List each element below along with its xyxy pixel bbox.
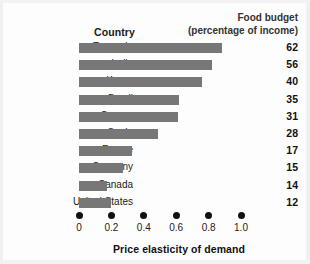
axis-tick-dot [76, 212, 83, 219]
axis-tick-dot [108, 212, 115, 219]
bar [79, 77, 202, 87]
axis-tick-label: 1.0 [221, 222, 261, 233]
chart-row: India56 [0, 57, 310, 74]
bar [79, 95, 179, 105]
food-budget-value: 17 [258, 144, 298, 156]
food-budget-value: 14 [258, 179, 298, 191]
food-budget-value: 56 [258, 58, 298, 70]
axis-tick-dot [140, 212, 147, 219]
bar [79, 181, 107, 191]
chart-row: Greece31 [0, 109, 310, 126]
chart-row: United States12 [0, 195, 310, 212]
food-budget-value: 15 [258, 161, 298, 173]
country-label: United States [0, 196, 133, 207]
bar [79, 112, 178, 122]
bar [79, 198, 111, 208]
bar [79, 60, 212, 70]
column-header-food-budget: Food budget (percentage of income) [108, 12, 298, 37]
chart-figure: Country Food budget (percentage of incom… [0, 0, 310, 264]
food-budget-value: 35 [258, 93, 298, 105]
chart-row: Korea40 [0, 74, 310, 91]
bar [79, 43, 222, 53]
axis-tick-dot [238, 212, 245, 219]
chart-row: Brazil35 [0, 92, 310, 109]
food-budget-value: 12 [258, 196, 298, 208]
axis-tick-dot [205, 212, 212, 219]
chart-row: Spain28 [0, 126, 310, 143]
country-label: Canada [0, 179, 133, 190]
chart-row: Tanzania62 [0, 40, 310, 57]
chart-row: Canada14 [0, 178, 310, 195]
x-axis-label: Price elasticity of demand [79, 243, 279, 255]
food-budget-value: 62 [258, 41, 298, 53]
x-axis: 00.20.40.60.81.0 [0, 212, 310, 242]
bar [79, 129, 158, 139]
column-header-food-budget-line2: (percentage of income) [108, 25, 298, 38]
figure-top-edge [0, 0, 310, 3]
food-budget-value: 28 [258, 127, 298, 139]
chart-row: Germany15 [0, 160, 310, 177]
bar [79, 146, 132, 156]
figure-bottom-edge [0, 260, 310, 264]
plot-area: Tanzania62India56Korea40Brazil35Greece31… [0, 40, 310, 212]
column-header-food-budget-line1: Food budget [108, 12, 298, 25]
food-budget-value: 31 [258, 110, 298, 122]
chart-row: France17 [0, 143, 310, 160]
food-budget-value: 40 [258, 75, 298, 87]
bar [79, 163, 123, 173]
axis-tick-dot [173, 212, 180, 219]
